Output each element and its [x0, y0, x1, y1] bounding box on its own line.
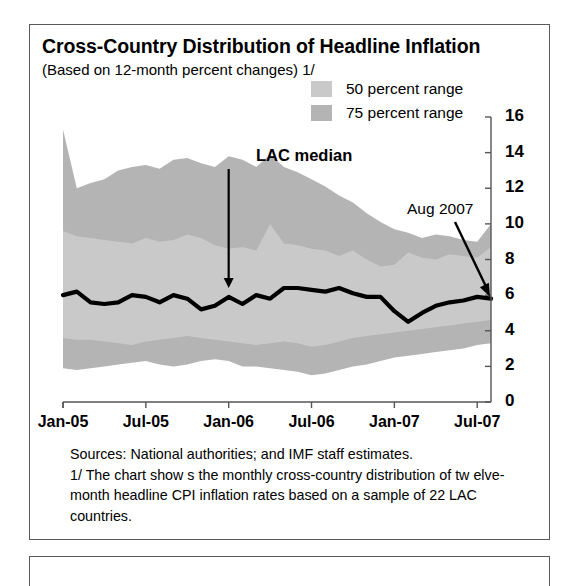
y-tick-2: 2 — [505, 355, 535, 375]
x-tick-jan-05: Jan-05 — [20, 413, 106, 431]
annotation-aug-2007: Aug 2007 — [407, 200, 473, 218]
footnote-note: 1/ The chart show s the monthly cross-co… — [70, 465, 525, 527]
x-tick-jan-07: Jan-07 — [351, 413, 437, 431]
x-tick-jul-06: Jul-06 — [269, 413, 355, 431]
annotation-lac-median: LAC median — [256, 146, 352, 165]
x-tick-jul-07: Jul-07 — [434, 413, 520, 431]
y-tick-6: 6 — [505, 284, 535, 304]
figure-frame: Cross-Country Distribution of Headline I… — [29, 24, 550, 540]
footnote-block: Sources: National authorities; and IMF s… — [70, 444, 525, 526]
y-tick-4: 4 — [505, 320, 535, 340]
y-tick-8: 8 — [505, 249, 535, 269]
y-tick-12: 12 — [505, 177, 535, 197]
y-tick-14: 14 — [505, 142, 535, 162]
secondary-frame — [29, 556, 550, 586]
y-tick-10: 10 — [505, 213, 535, 233]
y-tick-16: 16 — [505, 106, 535, 126]
y-tick-0: 0 — [505, 391, 535, 411]
x-tick-jan-06: Jan-06 — [186, 413, 272, 431]
x-tick-jul-05: Jul-05 — [103, 413, 189, 431]
footnote-sources: Sources: National authorities; and IMF s… — [70, 444, 525, 465]
